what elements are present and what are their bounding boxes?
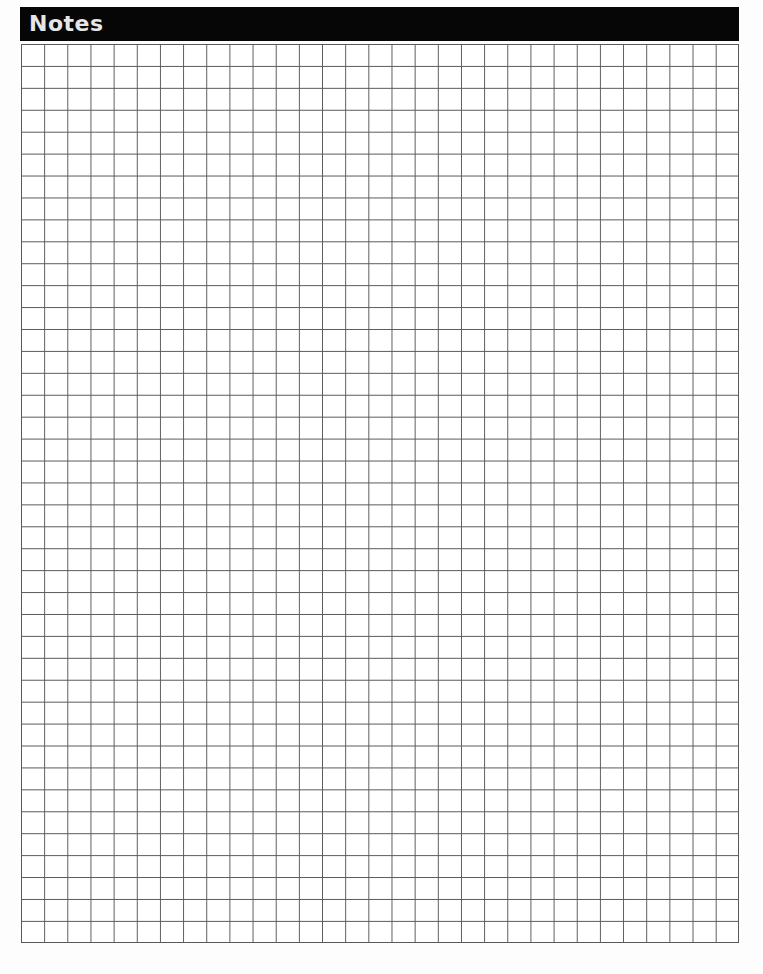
page-title: Notes: [29, 10, 104, 38]
notes-header-bar: Notes: [20, 7, 739, 41]
graph-paper-grid: [21, 44, 739, 943]
